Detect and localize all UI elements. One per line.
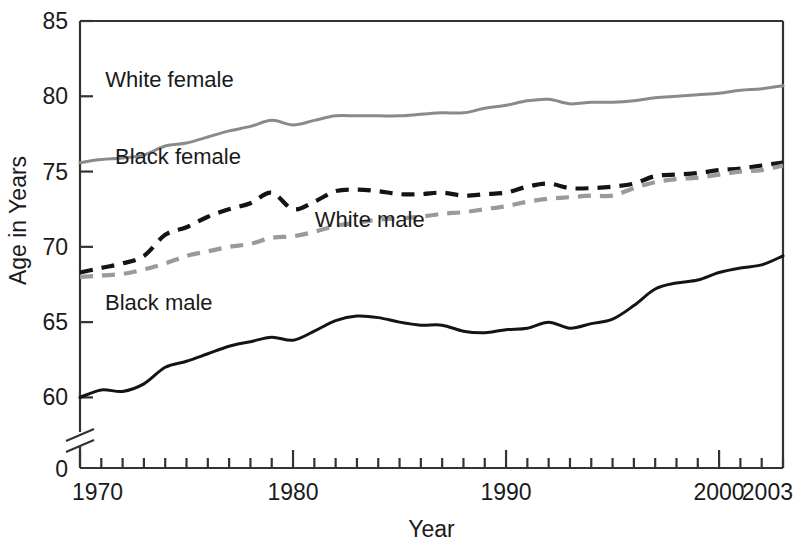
series-line-black-male [80,256,783,398]
y-tick-label: 60 [42,384,68,410]
y-tick-label: 75 [42,159,68,185]
x-tick-label: 2000 [694,479,745,505]
x-tick-label: 1990 [480,479,531,505]
x-tick-label: 1970 [72,479,123,505]
series-line-black-female [80,163,783,273]
x-axis-ticks: 19701980199020002003 [72,450,793,505]
x-tick-label: 2003 [742,479,793,505]
series-label-white-female: White female [105,67,233,92]
y-axis-title: Age in Years [5,156,31,285]
series-label-black-male: Black male [105,290,213,315]
series-labels: White femaleBlack femaleWhite maleBlack … [105,67,425,315]
series-label-white-male: White male [315,207,425,232]
y-tick-label: 70 [42,234,68,260]
y-tick-label: 65 [42,309,68,335]
life-expectancy-line-chart: 858075706560019701980199020002003White f… [0,0,812,551]
y-tick-label: 85 [42,8,68,34]
y-axis-ticks: 8580757065600 [42,8,93,482]
series-line-white-male [80,166,783,277]
chart-figure: 858075706560019701980199020002003White f… [0,0,812,551]
x-tick-label: 1980 [267,479,318,505]
y-tick-label-zero: 0 [55,456,68,482]
series-label-black-female: Black female [115,144,241,169]
x-axis-title: Year [408,516,455,542]
data-series-group [80,86,783,398]
y-tick-label: 80 [42,83,68,109]
